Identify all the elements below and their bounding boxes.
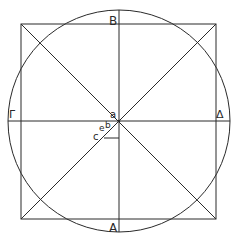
label-right: Δ: [216, 108, 224, 121]
label-left: Γ: [9, 108, 16, 121]
label-top: B: [109, 14, 117, 28]
label-e: e: [99, 123, 105, 133]
label-b: b: [105, 120, 111, 130]
label-center: a: [110, 109, 116, 120]
label-c: c: [93, 131, 99, 142]
center-point: [118, 120, 121, 123]
label-bottom: A: [109, 221, 118, 235]
geometric-diagram: B A Γ Δ a b e c: [0, 0, 233, 241]
